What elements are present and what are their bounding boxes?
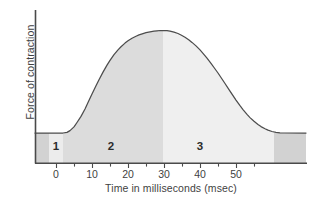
curve-area-contraction <box>35 31 163 134</box>
x-tick-label-40: 40 <box>185 168 215 180</box>
x-tick-label-10: 10 <box>77 168 107 180</box>
region-label-1: 1 <box>44 140 68 152</box>
x-tick-label-0: 0 <box>41 168 71 180</box>
x-tick-label-20: 20 <box>113 168 143 180</box>
x-tick-label-50: 50 <box>221 168 251 180</box>
region-label-2: 2 <box>99 140 123 152</box>
x-tick-label-30: 30 <box>149 168 179 180</box>
x-axis-label: Time in milliseconds (msec) <box>35 182 307 194</box>
muscle-twitch-figure: Force of contraction Time in millisecond… <box>0 0 327 206</box>
band-region-3 <box>163 133 274 163</box>
curve-fill-group <box>35 31 306 134</box>
curve-area-relaxation <box>163 31 306 134</box>
band-strip-group <box>35 133 306 163</box>
region-label-3: 3 <box>188 140 212 152</box>
y-axis-label: Force of contraction <box>20 0 40 152</box>
band-outer-right <box>274 133 306 163</box>
